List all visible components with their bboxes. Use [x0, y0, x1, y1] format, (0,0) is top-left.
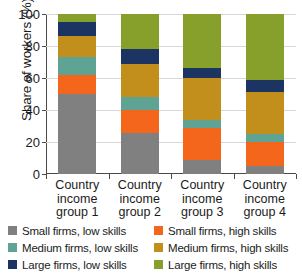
bar-segment[interactable]: [183, 68, 221, 78]
x-axis-label-line: income: [234, 193, 296, 207]
legend-swatch-icon: [8, 243, 17, 252]
x-axis-label-line: group 2: [109, 206, 171, 220]
legend-label: Large firms, high skills: [168, 259, 277, 271]
plot-area: 020406080100: [46, 14, 296, 174]
bar-segment[interactable]: [183, 14, 221, 68]
legend-item[interactable]: Medium firms, low skills: [8, 242, 154, 254]
legend-swatch-icon: [154, 260, 163, 269]
chart-legend: Small firms, low skillsSmall firms, high…: [8, 222, 296, 273]
bar-segment[interactable]: [121, 97, 159, 110]
x-axis-label-line: income: [109, 193, 171, 207]
bar-segment[interactable]: [121, 110, 159, 133]
bar-segment[interactable]: [183, 120, 221, 128]
bar-segment[interactable]: [58, 75, 96, 94]
bar-segment[interactable]: [58, 94, 96, 174]
x-axis-label-2: Countryincomegroup 2: [109, 179, 171, 220]
legend-item[interactable]: Small firms, low skills: [8, 225, 154, 237]
y-tick-label: 20: [26, 135, 40, 150]
bar-segment[interactable]: [246, 14, 284, 80]
bar-segment[interactable]: [121, 14, 159, 49]
stacked-bar[interactable]: [246, 14, 284, 174]
bar-segment[interactable]: [121, 49, 159, 63]
legend-swatch-icon: [8, 260, 17, 269]
bar-segment[interactable]: [58, 14, 96, 22]
bar-segment[interactable]: [246, 80, 284, 92]
legend-label: Small firms, low skills: [22, 225, 126, 237]
bar-segment[interactable]: [183, 128, 221, 160]
stacked-bar[interactable]: [183, 14, 221, 174]
bar-segment[interactable]: [183, 78, 221, 120]
legend-swatch-icon: [154, 243, 163, 252]
bar-segment[interactable]: [246, 166, 284, 174]
x-axis-label-line: Country: [109, 179, 171, 193]
x-axis-label-4: Countryincomegroup 4: [234, 179, 296, 220]
y-tick-label: 0: [33, 167, 40, 182]
x-axis-label-line: group 1: [46, 206, 108, 220]
legend-item[interactable]: Small firms, high skills: [154, 225, 300, 237]
x-axis-labels: Countryincomegroup 1Countryincomegroup 2…: [46, 179, 296, 220]
legend-swatch-icon: [154, 226, 163, 235]
x-axis-label-line: Country: [171, 179, 233, 193]
y-tick-label: 100: [18, 7, 40, 22]
x-axis-label-line: group 4: [234, 206, 296, 220]
bar-segment[interactable]: [58, 57, 96, 75]
stacked-bar[interactable]: [58, 14, 96, 174]
y-tick-label: 40: [26, 103, 40, 118]
y-tick-label: 60: [26, 71, 40, 86]
x-axis-label-line: Country: [234, 179, 296, 193]
x-axis-label-line: Country: [46, 179, 108, 193]
legend-label: Small firms, high skills: [168, 225, 276, 237]
bar-segment[interactable]: [183, 160, 221, 174]
bar-segment[interactable]: [246, 92, 284, 134]
bar-group: [46, 14, 296, 174]
legend-item[interactable]: Large firms, high skills: [154, 259, 300, 271]
legend-label: Medium firms, high skills: [168, 242, 288, 254]
x-axis-label-line: group 3: [171, 206, 233, 220]
x-tick-mark: [296, 174, 297, 179]
x-axis-label-1: Countryincomegroup 1: [46, 179, 108, 220]
bar-segment[interactable]: [58, 36, 96, 57]
x-axis-label-3: Countryincomegroup 3: [171, 179, 233, 220]
stacked-bar-chart: Share of workers (%) 020406080100 Countr…: [0, 0, 302, 280]
stacked-bar[interactable]: [121, 14, 159, 174]
y-tick-label: 80: [26, 39, 40, 54]
legend-label: Large firms, low skills: [22, 259, 127, 271]
legend-swatch-icon: [8, 226, 17, 235]
bar-segment[interactable]: [121, 133, 159, 174]
x-axis-label-line: income: [171, 193, 233, 207]
bar-segment[interactable]: [246, 134, 284, 142]
bar-segment[interactable]: [58, 22, 96, 36]
x-axis-label-line: income: [46, 193, 108, 207]
legend-label: Medium firms, low skills: [22, 242, 138, 254]
legend-item[interactable]: Large firms, low skills: [8, 259, 154, 271]
bar-segment[interactable]: [121, 64, 159, 98]
bar-segment[interactable]: [246, 142, 284, 166]
legend-item[interactable]: Medium firms, high skills: [154, 242, 300, 254]
